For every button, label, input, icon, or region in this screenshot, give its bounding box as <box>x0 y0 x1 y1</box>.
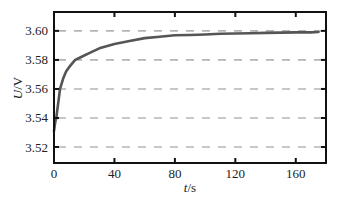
y-tick-label: 3.56 <box>25 81 48 96</box>
y-tick-label: 3.54 <box>25 110 48 125</box>
y-tick-label: 3.60 <box>25 23 48 38</box>
x-axis-label: t/s <box>184 180 196 195</box>
data-series <box>54 32 318 131</box>
voltage-curve <box>54 32 318 131</box>
voltage-time-chart: 3.523.543.563.583.60 04080120160 t/s U/V <box>0 0 343 199</box>
x-tick-label: 0 <box>51 166 58 181</box>
y-tick-label: 3.58 <box>25 52 48 67</box>
x-tick-label: 40 <box>108 166 121 181</box>
y-tick-labels: 3.523.543.563.583.60 <box>25 23 48 154</box>
x-tick-label: 160 <box>286 166 306 181</box>
x-tick-label: 80 <box>168 166 181 181</box>
x-axis-label-unit: /s <box>187 180 196 195</box>
x-tick-label: 120 <box>226 166 246 181</box>
x-tick-labels: 04080120160 <box>51 166 306 181</box>
y-tick-label: 3.52 <box>25 140 48 155</box>
y-axis-label: U/V <box>10 76 25 99</box>
y-axis-label-unit: /V <box>10 76 25 90</box>
